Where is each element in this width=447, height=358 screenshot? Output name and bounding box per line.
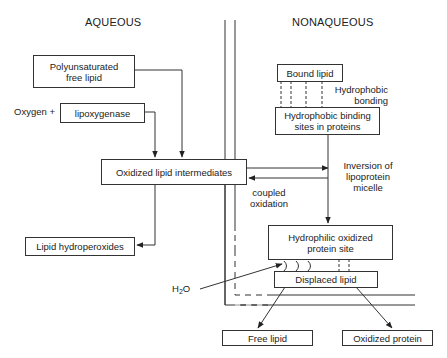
aqueous-region-label: AQUEOUS [85,16,141,28]
lipoxygenase-node: lipoxygenase [60,103,145,123]
node-label-line2: protein site [307,243,353,254]
free-lipid-node: Free lipid [222,330,313,346]
hydrophobic-bonding-annotation: Hydrophobic bonding [328,84,388,106]
node-label-line1: Hydrophilic oxidized [288,232,372,243]
node-label-line1: Polyunsaturated [50,61,119,72]
oxidized-lipid-intermediates-node: Oxidized lipid intermediates [101,159,247,185]
node-label-line1: Hydrophobic binding [284,110,371,121]
node-label-line2: sites in proteins [294,121,360,132]
coupled-oxidation-annotation: coupled oxidation [244,187,294,209]
annotation-line2: lipoprotein [337,171,399,182]
annotation-line3: micelle [337,182,399,193]
inversion-annotation: Inversion of lipoprotein micelle [337,160,399,193]
water-h: H [172,283,179,294]
annotation-line1: Hydrophobic [328,84,388,95]
oxidized-protein-node: Oxidized protein [342,330,433,346]
bound-lipid-node: Bound lipid [277,64,343,82]
water-label: H2O [172,283,190,297]
displaced-lipid-node: Displaced lipid [274,271,378,288]
hydrophobic-binding-sites-node: Hydrophobic binding sites in proteins [275,107,380,135]
annotation-line2: oxidation [244,198,294,209]
hydrophilic-oxidized-protein-site-node: Hydrophilic oxidized protein site [268,225,393,260]
nonaqueous-region-label: NONAQUEOUS [292,16,373,28]
annotation-line2: bonding [328,95,388,106]
annotation-line1: coupled [244,187,294,198]
water-o: O [183,283,190,294]
node-label-line2: free lipid [66,72,102,83]
polyunsaturated-free-lipid-node: Polyunsaturated free lipid [33,55,135,88]
oxygen-plus-label: Oxygen + [14,106,55,117]
annotation-line1: Inversion of [337,160,399,171]
lipid-hydroperoxides-node: Lipid hydroperoxides [25,237,135,256]
